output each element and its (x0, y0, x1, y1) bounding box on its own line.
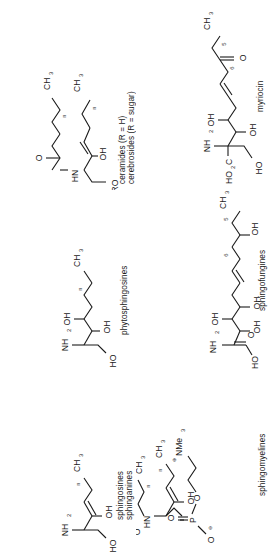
label-nh2: NH (202, 140, 212, 152)
label-sub3-nme: 3 (180, 429, 186, 432)
label-ch3-b: CH (154, 446, 164, 458)
label-sub-n-2: n (91, 106, 97, 109)
label-sub3-b: 3 (160, 440, 166, 443)
structure-ceramides: HN O n CH 3 RO OH (0, 0, 136, 190)
caption-sphingosines: sphingosines sphinganines (116, 471, 135, 520)
caption-sphingomyelines: sphingomyelines (258, 434, 267, 497)
figure-sheet: HN O n CH 3 RO OH (0, 0, 272, 560)
label-sub-n: n (77, 287, 83, 290)
label-oh-d: OH (250, 223, 260, 236)
panel-phytosphingosines: HO NH 2 OH OH n CH 3 ph (0, 190, 136, 375)
label-sub-5: 5 (221, 42, 227, 45)
panel-sphingomyelines: NMe 3 ⊕ O P O O ⊖ HN (136, 375, 272, 560)
label-oh: OH (98, 148, 108, 161)
label-sub-3-chain: 3 (78, 74, 84, 77)
label-carbonyl-o: O (34, 154, 44, 161)
label-oh: OH (186, 492, 196, 505)
label-nh2: NH (208, 341, 218, 353)
label-oh: OH (104, 506, 114, 519)
label-ch3: CH (72, 460, 82, 472)
label-sub-3: 3 (208, 12, 214, 15)
label-sub3: 3 (78, 249, 84, 252)
panel-myriocin: HO 2 C HO NH 2 OH OH (136, 0, 272, 190)
label-ho: HO (250, 356, 260, 369)
label-sub-3-acyl: 3 (48, 72, 54, 75)
label-ch3-acyl: CH (42, 78, 52, 90)
label-phos-o2: O (166, 514, 176, 521)
label-ho: HO (108, 354, 118, 367)
label-ho2c: HO (224, 171, 234, 184)
label-sub3: 3 (78, 454, 84, 457)
label-phos-p: P (188, 517, 198, 523)
label-sub-6: 6 (223, 253, 229, 256)
label-ch3: CH (218, 197, 228, 209)
structure-sphingofungines: HO O NH 2 OH OH OH (136, 190, 272, 375)
caption-sphingofungines: sphingofungines (258, 250, 267, 311)
label-sub-6: 6 (229, 66, 235, 69)
label-sub-na: n (145, 484, 151, 487)
caption-ceramides: ceramides (R = H) cerebrosides (R = suga… (118, 67, 136, 184)
label-sub2: 2 (214, 331, 220, 334)
label-nh2: NH (60, 339, 70, 351)
label-ho: HO (254, 161, 264, 174)
label-oh-c: OH (252, 321, 262, 334)
label-hn: HN (142, 516, 152, 528)
label-nh2: NH (60, 524, 70, 536)
label-c-ho2c: C (224, 159, 234, 165)
label-oh-b: OH (210, 313, 220, 326)
label-oh-a: OH (62, 313, 72, 326)
structure-phytosphingosines: HO NH 2 OH OH n CH 3 (0, 190, 136, 375)
label-ho: HO (108, 539, 118, 552)
structure-myriocin: HO 2 C HO NH 2 OH OH (136, 0, 272, 190)
label-ch3-a: CH (136, 462, 144, 474)
label-sub3: 3 (224, 191, 230, 194)
panel-sphingofungines: HO O NH 2 OH OH OH (136, 190, 272, 375)
label-oh-b: OH (248, 124, 258, 137)
label-oh-a: OH (206, 114, 216, 127)
label-sub-n: n (61, 114, 67, 117)
label-sub-n: n (75, 482, 81, 485)
label-sub2: 2 (66, 329, 72, 332)
label-sub2: 2 (66, 514, 72, 517)
label-sub2-ho2c: 2 (230, 166, 236, 169)
label-carbonyl-o: O (136, 528, 142, 535)
label-plus-charge: ⊕ (171, 458, 177, 462)
label-ketone-o: O (238, 54, 248, 61)
caption-phytosphingosines: phytosphingosines (120, 265, 129, 335)
label-oh-b: OH (102, 321, 112, 334)
label-nme3: NMe (174, 438, 184, 456)
label-sub-nb: n (157, 468, 163, 471)
label-sub-5: 5 (223, 217, 229, 220)
label-minus-charge: ⊖ (207, 526, 213, 530)
caption-myriocin: myriocin (256, 81, 265, 112)
label-sub2-nh2: 2 (208, 130, 214, 133)
label-ch3: CH (202, 18, 212, 30)
label-sub3-a: 3 (140, 456, 146, 459)
label-ch3-chain: CH (72, 80, 82, 92)
label-ch3: CH (72, 255, 82, 267)
label-hn: HN (70, 170, 80, 182)
structure-sphingosines: HO NH 2 OH n CH 3 (0, 375, 136, 560)
panel-sphingosines: HO NH 2 OH n CH 3 sphingosines sphingani… (0, 375, 136, 560)
label-phos-ominus: O (206, 536, 216, 543)
structure-sphingomyelines: NMe 3 ⊕ O P O O ⊖ HN (136, 375, 272, 560)
panel-ceramides: HN O n CH 3 RO OH (0, 0, 136, 190)
